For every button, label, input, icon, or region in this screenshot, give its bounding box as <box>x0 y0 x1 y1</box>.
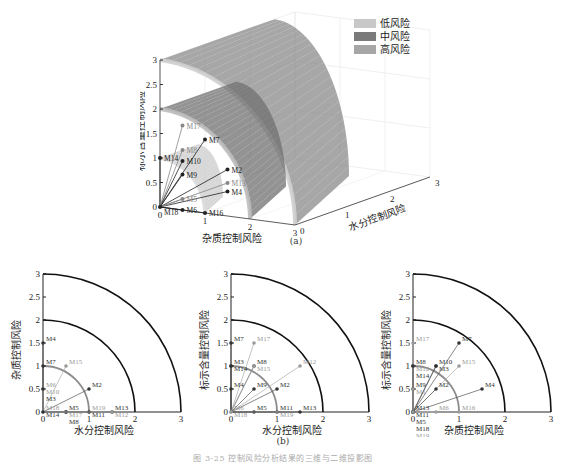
legend-swatch <box>354 19 376 28</box>
point-label: M13 <box>232 179 246 188</box>
x-tick-label: 3 <box>179 414 184 424</box>
x-axis-label: 水分控制风险 <box>262 424 322 436</box>
point-label: M4 <box>46 335 56 343</box>
data-point <box>252 387 256 391</box>
y-tick-label: 2.5 <box>399 292 411 302</box>
x-tick-label: 0 <box>411 414 416 424</box>
point-label: M16 <box>462 404 476 412</box>
data-point <box>41 410 45 414</box>
risk-arc <box>43 274 181 412</box>
x-tick-label: 1 <box>457 414 462 424</box>
z-tick-label: 1.5 <box>146 129 158 139</box>
data-point <box>110 410 114 414</box>
y-tick-label: 3 <box>435 178 440 188</box>
chart-3d-panel: 00.511.522.5301230123杂质控制风险水分控制风险标示含量控制风… <box>140 0 450 250</box>
point-label: M18 <box>234 411 248 419</box>
point-label: M13 <box>303 404 317 412</box>
z-tick-label: 3 <box>153 55 158 65</box>
y-tick-label: 3 <box>406 269 411 279</box>
data-point <box>229 341 233 345</box>
point-label: M17 <box>257 335 271 343</box>
point-label: M2 <box>92 381 102 389</box>
chart-3d: 00.511.522.5301230123杂质控制风险水分控制风险标示含量控制风… <box>140 0 450 250</box>
data-point <box>457 410 461 414</box>
x-tick-label: 1 <box>203 216 208 226</box>
point-label: M14 <box>164 154 178 163</box>
point-label: M7 <box>209 136 220 145</box>
y-tick-label: 3 <box>224 269 229 279</box>
x-tick-label: 3 <box>549 414 554 424</box>
x-tick-label: 2 <box>248 222 253 232</box>
data-point <box>434 364 438 368</box>
x-tick-label: 0 <box>229 414 234 424</box>
point-label: M12 <box>115 411 129 419</box>
y-axis-label: 水分控制风险 <box>347 201 407 233</box>
x-tick-label: 1 <box>275 414 280 424</box>
data-point <box>158 156 162 160</box>
point-label: M1 <box>416 388 426 396</box>
point-label: M9 <box>257 381 267 389</box>
point-label: M17 <box>187 122 201 131</box>
y-tick-label: 1 <box>345 210 350 220</box>
point-label: M10 <box>187 157 201 166</box>
point-label: M2 <box>280 381 290 389</box>
data-point <box>181 173 185 177</box>
data-point <box>457 364 461 368</box>
y-axis-label: 杂质控制风险 <box>10 320 22 380</box>
point-label: M7 <box>234 335 244 343</box>
data-point <box>411 364 415 368</box>
chart-2d-panel-2: 00.511.522.530123水分控制风险标示含量控制风险M7M17M3M1… <box>188 262 378 437</box>
point-label: M15 <box>69 358 83 366</box>
legend-swatch <box>354 32 376 41</box>
point-label: M15 <box>462 358 476 366</box>
point-label: M2 <box>232 166 243 175</box>
x-axis-label: 杂质控制风险 <box>202 232 262 244</box>
x-tick-label: 0 <box>41 414 46 424</box>
y-tick-label: 2.5 <box>29 292 41 302</box>
y-tick-label: 2.5 <box>217 292 229 302</box>
x-tick-label: 2 <box>133 414 138 424</box>
point-label: M4 <box>485 381 495 389</box>
legend: 低风险中风险高风险 <box>354 17 410 55</box>
chart-2d-panel-1: 00.511.522.530123水分控制风险杂质控制风险M4M7M15M6M1… <box>0 262 195 437</box>
legend-label: 高风险 <box>380 43 410 55</box>
figure-title: 图 3-25 控制风险分析结果的三维与二维投影图 <box>0 452 566 463</box>
y-tick-label: 2 <box>36 315 41 325</box>
z-tick-label: 1 <box>153 153 158 163</box>
x-tick-label: 0 <box>158 210 163 220</box>
legend-label: 低风险 <box>380 17 410 29</box>
point-label: M4 <box>232 188 243 197</box>
data-point <box>411 341 415 345</box>
point-label: M7 <box>462 335 472 343</box>
point-label: M14 <box>416 372 430 380</box>
data-point <box>480 387 484 391</box>
point-label: M6 <box>439 404 449 412</box>
y-tick-label: 2 <box>390 194 395 204</box>
data-point <box>298 410 302 414</box>
risk-arc <box>43 320 135 412</box>
data-point <box>434 387 438 391</box>
z-tick-label: 0.5 <box>146 178 158 188</box>
z-tick-label: 0 <box>153 202 158 212</box>
data-point <box>64 364 68 368</box>
data-point <box>41 341 45 345</box>
y-tick-label: 2 <box>224 315 229 325</box>
point-label: M8 <box>69 418 79 426</box>
chart-2d-water-content: 00.511.522.530123水分控制风险标示含量控制风险M7M17M3M1… <box>188 262 378 437</box>
data-point <box>41 364 45 368</box>
point-label: M7 <box>46 358 56 366</box>
data-point <box>229 410 233 414</box>
chart-2d-panel-3: 00.511.522.530123杂质控制风险标示含量控制风险M17M7M8M1… <box>370 262 566 437</box>
point-label: M8 <box>187 146 198 155</box>
data-point <box>203 138 207 142</box>
y-tick-label: 0 <box>300 226 305 236</box>
data-point <box>41 387 45 391</box>
z-tick-label: 2.5 <box>146 80 158 90</box>
y-tick-label: 0 <box>224 407 229 417</box>
data-point <box>87 387 91 391</box>
y-tick-label: 1.5 <box>217 338 229 348</box>
z-tick-label: 2 <box>153 104 158 114</box>
data-point <box>158 205 162 209</box>
y-tick-label: 0.5 <box>217 384 229 394</box>
caption-a: (a) <box>276 236 316 246</box>
